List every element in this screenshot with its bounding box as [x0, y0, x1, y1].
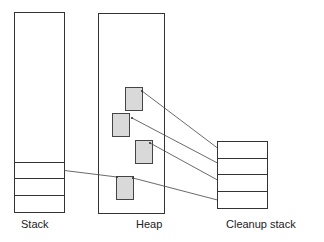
cleanup-stack [218, 142, 268, 209]
heap-block [117, 177, 134, 200]
heap-block [126, 88, 143, 111]
stack-label: Stack [21, 218, 49, 230]
heap-block [113, 114, 130, 137]
heap-label: Heap [136, 218, 162, 230]
memory-diagram [0, 0, 324, 242]
heap-block [136, 141, 153, 164]
stack-pointer-arrow [65, 171, 118, 178]
cleanup-pointer-arrow [133, 178, 218, 200]
cleanup-pointer-arrow [142, 91, 218, 148]
cleanup-stack-label: Cleanup stack [226, 218, 296, 230]
cleanup-pointer-arrow [150, 143, 218, 180]
stack [15, 13, 65, 213]
